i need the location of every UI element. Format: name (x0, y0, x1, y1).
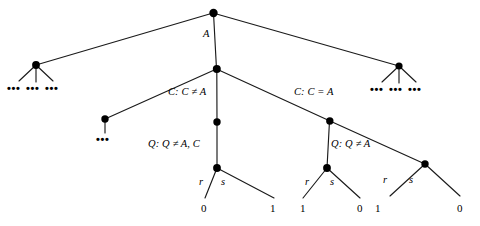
edge-group1-s (217, 168, 274, 198)
edge-group1-r (205, 168, 217, 198)
diagram-canvas: A C: C ≠ A C: C = A Q: Q ≠ A, C Q: Q ≠ A… (0, 0, 480, 226)
leaf-value-group3-left: 1 (375, 203, 381, 214)
ellipsis-right-fan-b: ••• (389, 84, 402, 95)
label-group3-r: r (383, 175, 387, 186)
leaf-value-group1-right: 1 (270, 203, 276, 214)
node-right (326, 117, 333, 124)
label-c-equal-a: C: C = A (294, 87, 334, 98)
label-root-branch: A (203, 29, 210, 40)
node-left-fan (32, 61, 40, 69)
label-q-not-equal-a-c: Q: Q ≠ A, C (148, 139, 200, 150)
ellipsis-left-fan-b: ••• (26, 83, 39, 94)
edge-group3-s (425, 164, 460, 196)
node-level2 (213, 65, 221, 73)
node-leafparent-3 (421, 160, 428, 167)
node-stub (101, 115, 108, 122)
node-root (209, 9, 217, 17)
ellipsis-right-fan-c: ••• (408, 84, 421, 95)
label-c-not-equal-a: C: C ≠ A (168, 87, 206, 98)
label-q-not-equal-a: Q: Q ≠ A (331, 139, 370, 150)
ellipsis-left-fan-a: ••• (7, 83, 20, 94)
edge-root-to-left-fan (36, 13, 213, 65)
ellipsis-stub: ••• (96, 134, 109, 145)
ellipsis-left-fan-c: ••• (45, 83, 58, 94)
leaf-value-group3-right: 0 (457, 203, 463, 214)
node-right-fan (395, 62, 402, 69)
edge-group3-r (390, 164, 425, 196)
leaf-value-group2-left: 1 (300, 203, 306, 214)
label-group1-s: s (221, 177, 225, 188)
edge-root-to-level2 (214, 13, 217, 69)
ellipsis-right-fan-a: ••• (370, 84, 383, 95)
leaf-value-group1-left: 0 (201, 203, 207, 214)
tree-edges-svg (0, 0, 480, 226)
node-leafparent-2 (323, 164, 331, 172)
edge-root-to-right-fan (213, 13, 399, 66)
node-middle (213, 118, 220, 125)
label-group2-s: s (330, 177, 334, 188)
label-group3-s: s (409, 175, 413, 186)
label-group1-r: r (199, 177, 203, 188)
edge-right-to-leafparent-mid (327, 121, 330, 168)
node-leafparent-1 (213, 164, 221, 172)
leaf-value-group2-right: 0 (357, 203, 363, 214)
label-group2-r: r (305, 177, 309, 188)
